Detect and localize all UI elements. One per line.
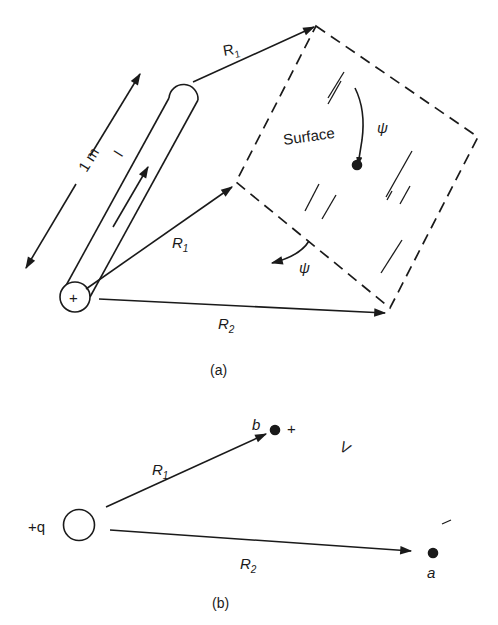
flux-symbol: ψ bbox=[377, 119, 388, 136]
point-b-label: b bbox=[252, 416, 260, 433]
flux-symbol-lower: ψ bbox=[299, 259, 310, 276]
r1-upper-arrow bbox=[193, 27, 314, 82]
figure-a bbox=[26, 26, 478, 313]
surface-point bbox=[353, 161, 362, 170]
flux-arrow bbox=[355, 88, 363, 165]
svg-text:R2: R2 bbox=[240, 555, 257, 575]
svg-text:R1: R1 bbox=[152, 461, 168, 481]
r1-lower-arrow bbox=[86, 187, 232, 289]
point-a-label: a bbox=[427, 564, 435, 581]
r1-b-label: R1 bbox=[152, 461, 168, 481]
r1-lower-label: R1 bbox=[172, 234, 188, 254]
r2-arrow bbox=[99, 299, 385, 313]
point-a bbox=[429, 549, 438, 558]
minus-sign-a bbox=[442, 520, 451, 524]
svg-text:R1: R1 bbox=[222, 39, 242, 62]
charge-label: +q bbox=[28, 518, 45, 535]
line-charge-plus: + bbox=[69, 289, 78, 306]
surface-hatching bbox=[305, 72, 412, 273]
caption-a: (a) bbox=[210, 362, 227, 378]
r1-upper-label: R1 bbox=[222, 39, 242, 62]
svg-text:R1: R1 bbox=[172, 234, 188, 254]
figure-b bbox=[64, 426, 452, 558]
current-label: I bbox=[110, 147, 127, 160]
point-b-polarity: + bbox=[287, 420, 296, 437]
length-label: 1 m bbox=[75, 144, 103, 174]
svg-text:R2: R2 bbox=[218, 315, 235, 335]
point-charge bbox=[64, 510, 95, 541]
caption-b: (b) bbox=[212, 595, 229, 611]
length-arrow-lower bbox=[26, 184, 76, 268]
diagram-canvas: 1 m I + R1 R1 R2 Surface ψ ψ (a) +q b + … bbox=[0, 0, 498, 625]
length-arrow-upper bbox=[90, 74, 140, 156]
r2-label: R2 bbox=[218, 315, 235, 335]
surface-label: Surface bbox=[282, 124, 336, 148]
r1-b-arrow bbox=[106, 434, 266, 507]
r2-b-arrow bbox=[110, 530, 411, 551]
point-b bbox=[271, 426, 280, 435]
r2-b-label: R2 bbox=[240, 555, 257, 575]
voltage-label: V bbox=[337, 438, 354, 458]
current-arrow bbox=[113, 167, 148, 227]
